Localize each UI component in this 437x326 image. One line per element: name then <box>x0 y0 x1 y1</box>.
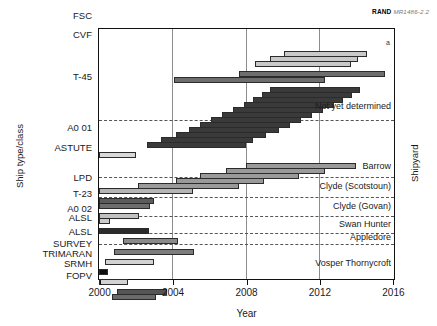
bar-alsl-29 <box>123 238 178 244</box>
category-label-cvf: CVF <box>0 30 92 40</box>
category-label-t-45: T-45 <box>0 72 92 82</box>
x-tick-2016 <box>393 280 394 285</box>
bar-cvf-4 <box>174 77 325 83</box>
shipyard-label-vosper-thornycroft: Vosper Thornycroft <box>315 258 391 268</box>
bar-a0-02-28 <box>99 228 149 234</box>
x-tick-label-2012: 2012 <box>300 287 340 298</box>
figure-root: RAND MR1486-2.2 Ship type/class Shipyard… <box>0 0 437 326</box>
bar-lpd-25 <box>99 203 150 209</box>
x-axis: 20002004200820122016 <box>98 280 395 306</box>
category-label-astute: ASTUTE <box>0 143 92 153</box>
plot-area: Not yet determinedBarrowClyde (Scotstoun… <box>98 28 395 280</box>
category-label-fsc: FSC <box>0 11 92 21</box>
x-tick-label-2000: 2000 <box>80 287 120 298</box>
category-label-lpd: LPD <box>0 173 92 183</box>
category-label-alsl: ALSL <box>0 213 92 223</box>
gridline-2008 <box>246 29 247 279</box>
bar-astute-23 <box>99 188 193 194</box>
bar-survey-31 <box>105 259 155 265</box>
x-tick-2012 <box>320 280 321 285</box>
shipyard-separator-3 <box>99 216 394 217</box>
bar-t-23-27 <box>99 218 110 224</box>
shipyard-label-clyde-govan-: Clyde (Govan) <box>333 201 391 211</box>
category-label-a0-01: A0 01 <box>0 123 92 133</box>
y-axis-title-right: Shipyard <box>409 145 420 183</box>
x-tick-2008 <box>247 280 248 285</box>
plot-inner: Not yet determinedBarrowClyde (Scotstoun… <box>99 29 394 279</box>
bar-t-45-16 <box>147 142 246 148</box>
category-label-srmh: SRMH <box>0 259 92 269</box>
x-tick-label-2008: 2008 <box>227 287 267 298</box>
rand-document-number: MR1486-2.2 <box>393 8 429 15</box>
x-tick-label-2016: 2016 <box>373 287 413 298</box>
category-label-t-23: T-23 <box>0 189 92 199</box>
shipyard-label-barrow: Barrow <box>362 161 391 171</box>
rand-credit: RAND MR1486-2.2 <box>372 8 429 15</box>
bar-fsc-2 <box>255 61 350 67</box>
category-label-fopv: FOPV <box>0 271 92 281</box>
rand-org-label: RAND <box>372 8 391 15</box>
bar-alsl-30 <box>114 249 195 255</box>
bar-a0-01-17 <box>99 152 136 158</box>
category-label-alsl: ALSL <box>0 227 92 237</box>
shipyard-label-swan-hunter: Swan Hunter <box>339 219 391 229</box>
x-tick-2004 <box>173 280 174 285</box>
shipyard-label-clyde-scotstoun-: Clyde (Scotstoun) <box>319 181 391 191</box>
bar-trimaran-32 <box>99 269 108 275</box>
x-axis-title: Year <box>98 308 395 319</box>
shipyard-note-not-yet-determined: Not yet determined <box>315 101 391 111</box>
footnote-marker-a: a <box>386 39 390 46</box>
x-tick-2000 <box>100 280 101 285</box>
x-tick-label-2004: 2004 <box>153 287 193 298</box>
shipyard-label-appledore: Appledore <box>350 232 391 242</box>
